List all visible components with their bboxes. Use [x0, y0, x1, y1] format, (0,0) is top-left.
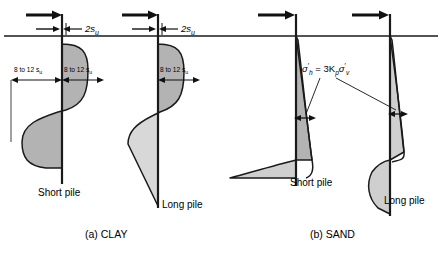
pile-soil-resistance-figure: 2su 8 to 12 su 8 to 12 su Short pile 2su [0, 0, 442, 254]
clay-long-pile-caption: Long pile [162, 199, 203, 210]
sand-panel-caption: (b) SAND [310, 228, 355, 240]
figure-background [0, 0, 442, 254]
clay-panel-caption: (a) CLAY [85, 228, 127, 240]
clay-short-pile-caption: Short pile [38, 187, 81, 198]
sand-short-pile-caption: Short pile [290, 177, 333, 188]
sand-long-pile-caption: Long pile [384, 195, 425, 206]
